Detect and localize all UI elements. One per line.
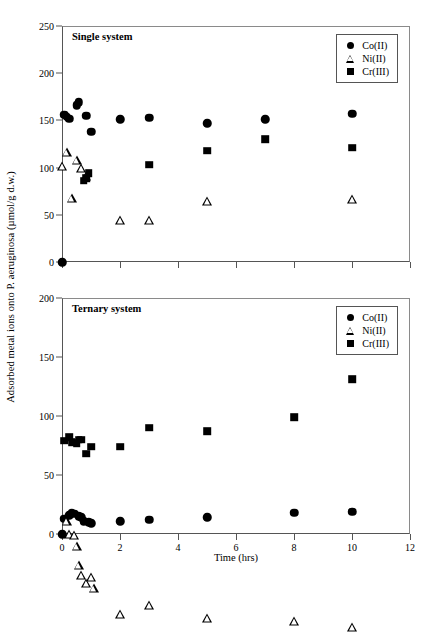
legend-item: Co(II)	[343, 311, 389, 324]
panel-title-single-system: Single system	[72, 31, 132, 42]
data-point-coii	[145, 113, 154, 122]
y-tick-mark	[56, 214, 62, 215]
data-point-niii	[72, 541, 82, 550]
x-tick-mark	[178, 534, 179, 540]
data-point-niii	[62, 148, 72, 157]
y-tick-mark	[56, 416, 62, 417]
data-point-niii	[289, 616, 299, 625]
legend-label: Ni(II)	[362, 325, 385, 336]
y-tick-label: 0	[49, 529, 54, 540]
data-point-coii	[145, 516, 154, 525]
x-tick-mark	[236, 262, 237, 268]
data-point-niii	[347, 623, 357, 632]
data-point-niii	[144, 216, 154, 225]
y-tick-label: 150	[39, 115, 54, 126]
data-point-coii	[82, 111, 91, 120]
open-triangle-icon	[343, 327, 357, 335]
filled-square-icon	[343, 340, 357, 347]
y-tick-label: 100	[39, 162, 54, 173]
x-tick-mark	[410, 262, 411, 268]
data-point-niii	[115, 215, 125, 224]
data-point-coii	[348, 507, 357, 516]
x-tick-mark	[120, 534, 121, 540]
data-point-niii	[69, 531, 79, 540]
data-point-criii	[85, 169, 93, 177]
data-point-criii	[82, 450, 90, 458]
chart-panel-single-system: Single system 050100150200250 Co(II)Ni(I…	[62, 26, 410, 262]
x-tick-mark	[294, 534, 295, 540]
legend-single-system: Co(II)Ni(II)Cr(III)	[336, 34, 398, 83]
chart-panel-ternary-system: Ternary system 050100150200024681012 Co(…	[62, 298, 410, 534]
x-tick-mark	[352, 534, 353, 540]
filled-circle-icon	[343, 42, 357, 50]
data-point-criii	[348, 376, 356, 384]
y-axis-title-container: Adsorbed metal ions onto P. aeruginosa (…	[0, 0, 20, 574]
open-triangle-icon	[343, 55, 357, 63]
legend-label: Cr(III)	[362, 338, 389, 349]
legend-item: Co(II)	[343, 39, 389, 52]
data-point-niii	[115, 609, 125, 618]
x-tick-mark	[236, 534, 237, 540]
y-axis-title: Adsorbed metal ions onto P. aeruginosa (…	[5, 171, 16, 403]
legend-label: Co(II)	[362, 40, 387, 51]
data-point-coii	[116, 517, 125, 526]
legend-item: Cr(III)	[343, 65, 389, 78]
panel-title-ternary-system: Ternary system	[72, 303, 141, 314]
legend-label: Ni(II)	[362, 53, 385, 64]
x-tick-mark	[120, 262, 121, 268]
data-point-coii	[348, 110, 357, 119]
x-tick-mark	[178, 262, 179, 268]
y-tick-label: 50	[44, 209, 54, 220]
x-tick-mark	[352, 262, 353, 268]
x-tick-mark	[294, 262, 295, 268]
data-point-coii	[65, 114, 74, 123]
data-point-niii	[347, 194, 357, 203]
data-point-niii	[67, 194, 77, 203]
data-point-coii	[75, 98, 84, 107]
y-tick-mark	[56, 120, 62, 121]
data-point-criii	[116, 443, 124, 451]
legend-label: Cr(III)	[362, 66, 389, 77]
data-point-coii	[203, 513, 212, 522]
data-point-criii	[145, 424, 153, 432]
data-point-coii	[290, 509, 299, 518]
data-point-niii	[57, 161, 67, 170]
data-point-criii	[203, 428, 211, 436]
legend-label: Co(II)	[362, 312, 387, 323]
data-point-criii	[348, 144, 356, 152]
y-tick-label: 150	[39, 352, 54, 363]
y-tick-mark	[56, 298, 62, 299]
data-point-niii	[202, 613, 212, 622]
y-tick-mark	[56, 26, 62, 27]
legend-ternary-system: Co(II)Ni(II)Cr(III)	[336, 306, 398, 355]
data-point-niii	[86, 572, 96, 581]
y-tick-label: 50	[44, 470, 54, 481]
data-point-coii	[116, 115, 125, 124]
data-point-criii	[87, 443, 95, 451]
legend-item: Ni(II)	[343, 324, 389, 337]
data-point-niii	[62, 517, 72, 526]
y-tick-mark	[56, 357, 62, 358]
data-point-coii	[203, 119, 212, 128]
data-point-niii	[89, 584, 99, 593]
y-tick-mark	[56, 475, 62, 476]
data-point-coii	[58, 258, 67, 267]
data-point-criii	[145, 161, 153, 169]
filled-circle-icon	[343, 314, 357, 322]
data-point-coii	[87, 519, 96, 528]
data-point-niii	[144, 601, 154, 610]
legend-item: Cr(III)	[343, 337, 389, 350]
data-point-criii	[261, 135, 269, 143]
y-tick-label: 250	[39, 21, 54, 32]
filled-square-icon	[343, 68, 357, 75]
data-point-criii	[290, 413, 298, 421]
data-point-coii	[87, 127, 96, 136]
data-point-criii	[78, 436, 86, 444]
x-axis-title: Time (hrs)	[62, 552, 410, 563]
data-point-niii	[202, 196, 212, 205]
legend-item: Ni(II)	[343, 52, 389, 65]
y-tick-label: 100	[39, 411, 54, 422]
y-tick-label: 200	[39, 68, 54, 79]
y-tick-label: 0	[49, 257, 54, 268]
